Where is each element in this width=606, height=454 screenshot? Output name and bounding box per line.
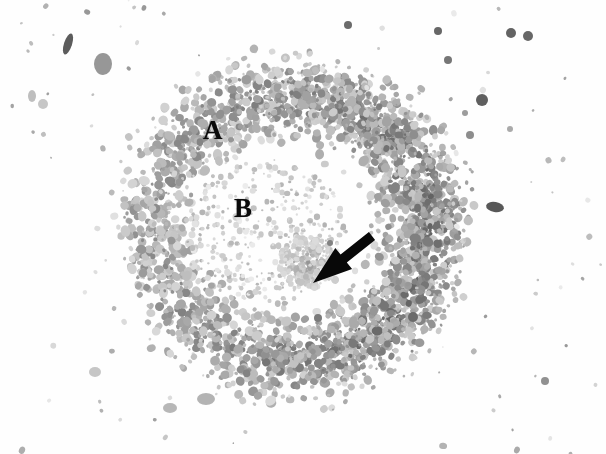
micrograph-image [0, 0, 606, 454]
micrograph-figure: A B [0, 0, 606, 454]
region-label-a: A [203, 117, 223, 144]
region-label-b: B [234, 195, 252, 222]
